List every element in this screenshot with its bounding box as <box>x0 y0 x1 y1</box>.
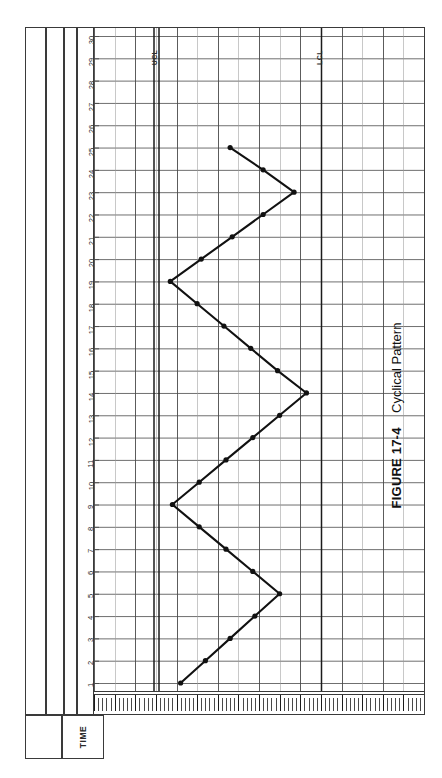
time-axis-label-text: TIME <box>78 726 88 749</box>
time-axis-label: TIME <box>62 715 104 759</box>
ruler-ticks <box>94 692 424 713</box>
form-column-inner <box>64 27 77 715</box>
form-column-middle <box>46 27 64 715</box>
time-scale-strip: 1234567891011121314151617181920212223242… <box>77 27 93 715</box>
data-series-layer <box>94 28 424 691</box>
ucl-label: UCL <box>147 54 163 61</box>
lcl-label: LCL <box>312 54 327 61</box>
chart-page: 1234567891011121314151617181920212223242… <box>0 0 442 778</box>
plot-inner <box>94 28 424 691</box>
form-corner-box <box>25 715 62 759</box>
control-chart-plot: UCL LCL <box>93 27 425 692</box>
form-column-outer <box>25 27 46 715</box>
ruler-strip <box>93 692 425 715</box>
